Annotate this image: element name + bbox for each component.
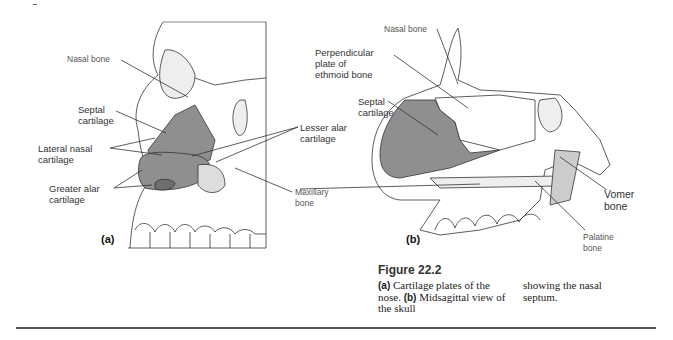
label-line: bone	[583, 243, 614, 254]
label-line: Maxillary	[295, 187, 329, 198]
label-line: cartilage	[78, 115, 114, 126]
label-b-perpendicular-plate: Perpendicular plate of ethmoid bone	[315, 47, 374, 80]
label-line: cartilage	[49, 194, 100, 205]
figure-number: Figure 22.2	[378, 263, 441, 277]
caption-column-2: showing the nasal septum.	[523, 280, 623, 303]
label-line: Septal	[358, 96, 394, 107]
label-line: ethmoid bone	[315, 69, 374, 80]
label-a-lateral-nasal-cartilage: Lateral nasal cartilage	[38, 143, 92, 165]
label-a-maxillary-bone: Maxillary bone	[295, 187, 329, 209]
caption-column-1: (a) Cartilage plates of the nose. (b) Mi…	[378, 280, 508, 315]
page-divider-rule	[16, 327, 656, 329]
panel-b-label: (b)	[406, 234, 420, 245]
label-a-nasal-bone: Nasal bone	[67, 54, 110, 65]
label-a-lesser-alar-cartilage: Lesser alar cartilage	[300, 122, 347, 144]
label-line: Lesser alar	[300, 122, 347, 133]
label-b-palatine-bone: Palatine bone	[583, 232, 614, 254]
label-b-septal-cartilage: Septal cartilage	[358, 96, 394, 118]
panel-a-label: (a)	[101, 234, 114, 245]
label-line: Palatine	[583, 232, 614, 243]
label-b-vomer-bone: Vomer bone	[604, 188, 634, 212]
label-line: Septal	[78, 104, 114, 115]
label-line: Vomer	[604, 188, 634, 200]
panel-a-drawing	[110, 22, 298, 248]
label-a-greater-alar-cartilage: Greater alar cartilage	[49, 183, 100, 205]
label-line: cartilage	[358, 107, 394, 118]
label-line: cartilage	[38, 154, 92, 165]
label-line: bone	[295, 198, 329, 209]
label-b-nasal-bone: Nasal bone	[384, 24, 427, 35]
label-line: cartilage	[300, 133, 347, 144]
caption-a-marker: (a)	[378, 280, 390, 291]
label-a-septal-cartilage: Septal cartilage	[78, 104, 114, 126]
label-line: Lateral nasal	[38, 143, 92, 154]
label-line: bone	[604, 200, 634, 212]
label-line: Greater alar	[49, 183, 100, 194]
label-line: plate of	[315, 58, 374, 69]
caption-b-marker: (b)	[404, 292, 417, 303]
label-line: Perpendicular	[315, 47, 374, 58]
